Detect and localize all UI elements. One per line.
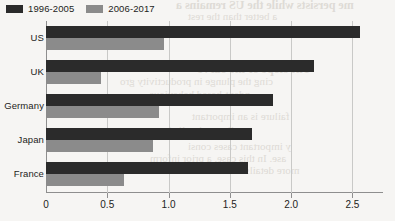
tick-mark [352, 193, 353, 198]
bar-group [46, 162, 383, 186]
bar-germany-1996-2005 [46, 94, 273, 106]
bar-us-1996-2005 [46, 26, 360, 38]
bar-france-2006-2017 [46, 174, 124, 186]
bar-groups [46, 21, 383, 193]
category-label-us: US [0, 32, 44, 43]
tick-label: 0 [26, 199, 66, 210]
bar-uk-1996-2005 [46, 60, 314, 72]
chart-legend: 1996-20052006-2017 [6, 3, 155, 14]
tick-mark [291, 193, 292, 198]
bar-group [46, 128, 383, 152]
tick-label: 0.5 [87, 199, 127, 210]
bar-uk-2006-2017 [46, 72, 101, 84]
bleed-through-text: me persists while the US remains a [176, 0, 354, 13]
legend-label: 2006-2017 [108, 3, 154, 14]
tick-label: 2.5 [332, 199, 372, 210]
bar-japan-2006-2017 [46, 140, 153, 152]
tick-mark [107, 193, 108, 198]
tick-label: 1.5 [210, 199, 250, 210]
legend-item-1: 1996-2005 [6, 3, 74, 14]
bar-group [46, 60, 383, 84]
bar-group [46, 26, 383, 50]
tick-mark [230, 193, 231, 198]
bar-japan-1996-2005 [46, 128, 252, 140]
legend-label: 1996-2005 [28, 3, 74, 14]
category-label-uk: UK [0, 66, 44, 77]
category-label-germany: Germany [0, 100, 44, 111]
bar-us-2006-2017 [46, 38, 164, 50]
chart-page: me persists while the US remains a a bet… [0, 0, 395, 221]
bar-germany-2006-2017 [46, 106, 159, 118]
bar-group [46, 94, 383, 118]
legend-swatch-icon [6, 5, 23, 13]
tick-mark [169, 193, 170, 198]
category-label-france: France [0, 168, 44, 179]
legend-item-2: 2006-2017 [86, 3, 154, 14]
tick-label: 1.0 [149, 199, 189, 210]
bar-france-1996-2005 [46, 162, 248, 174]
tick-label: 2.0 [271, 199, 311, 210]
plot-area: 00.51.01.52.02.5 [46, 21, 383, 193]
legend-swatch-icon [86, 5, 103, 13]
category-label-japan: Japan [0, 134, 44, 145]
